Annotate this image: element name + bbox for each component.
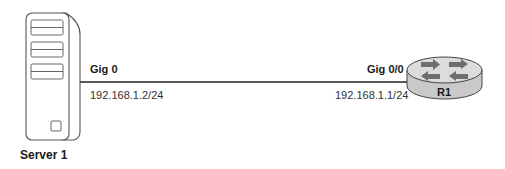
server-ip-label: 192.168.1.2/24 <box>90 89 163 101</box>
router-name-label: R1 <box>437 86 451 98</box>
server-interface-label: Gig 0 <box>90 63 118 75</box>
server-name-label: Server 1 <box>20 148 67 162</box>
router-ip-label: 192.168.1.1/24 <box>335 89 408 101</box>
server-icon[interactable] <box>26 13 80 140</box>
router-interface-label: Gig 0/0 <box>367 63 404 75</box>
topology-canvas <box>0 0 505 169</box>
